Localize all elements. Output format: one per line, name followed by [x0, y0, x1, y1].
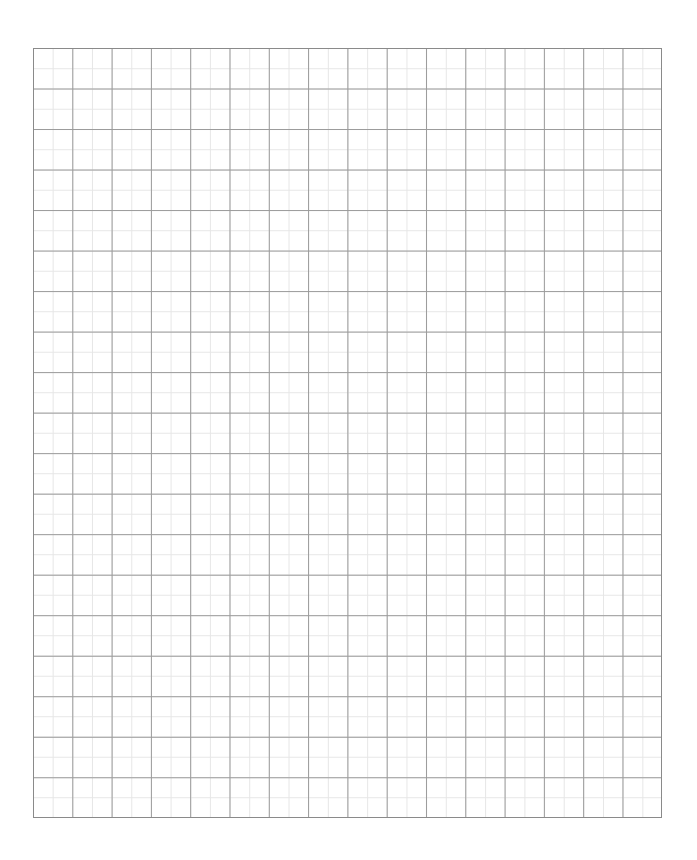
grid-paper: [33, 48, 662, 818]
